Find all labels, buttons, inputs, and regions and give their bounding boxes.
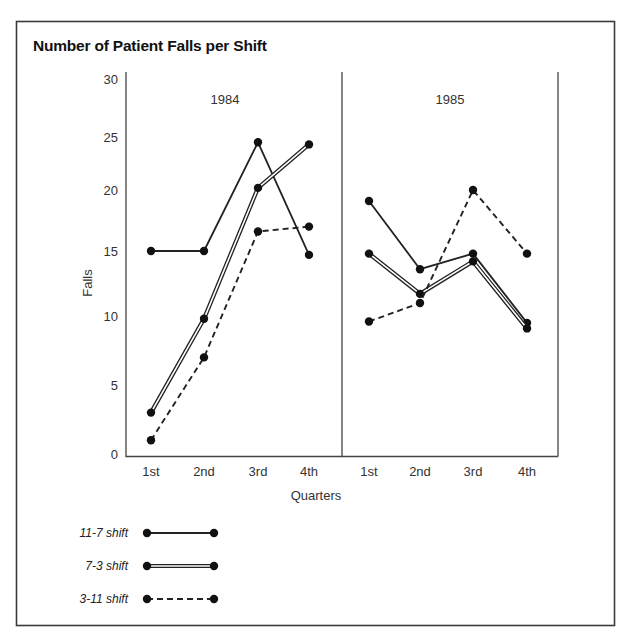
- series-line-double-inner: [369, 254, 527, 329]
- x-tick-label: 2nd: [193, 464, 215, 479]
- y-tick-label: 25: [104, 130, 118, 145]
- x-tick-label: 2nd: [409, 464, 431, 479]
- panel-label-1985: 1985: [436, 92, 465, 107]
- series-11-7-shift-1985: [365, 197, 531, 327]
- y-tick-label: 10: [104, 309, 118, 324]
- data-series: [147, 138, 531, 444]
- series-7-3-shift-1984: [147, 140, 313, 417]
- data-point-marker: [200, 315, 208, 323]
- data-point-marker: [200, 247, 208, 255]
- series-11-7-shift-1984: [147, 138, 313, 259]
- series-line-double-outer: [151, 144, 309, 412]
- axes: [126, 72, 558, 457]
- data-point-marker: [469, 249, 477, 257]
- chart-title: Number of Patient Falls per Shift: [33, 37, 267, 54]
- data-point-marker: [200, 353, 208, 361]
- data-point-marker: [365, 317, 373, 325]
- data-point-marker: [305, 140, 313, 148]
- panel-divider: [342, 72, 558, 457]
- data-point-marker: [254, 227, 262, 235]
- legend-marker: [210, 529, 218, 537]
- data-point-marker: [305, 222, 313, 230]
- legend-marker: [210, 562, 218, 570]
- x-tick-label: 3rd: [464, 464, 483, 479]
- data-point-marker: [147, 436, 155, 444]
- series-line-double-outer: [369, 254, 527, 329]
- legend-item: 7-3 shift: [85, 559, 218, 573]
- y-tick-label: 15: [104, 244, 118, 259]
- data-point-marker: [365, 197, 373, 205]
- patient-falls-chart: Number of Patient Falls per Shift 051015…: [0, 0, 627, 644]
- y-axis-ticks: 051015202530: [104, 72, 118, 462]
- y-tick-label: 0: [111, 447, 118, 462]
- data-point-marker: [254, 184, 262, 192]
- data-point-marker: [469, 186, 477, 194]
- x-tick-label: 1st: [360, 464, 378, 479]
- legend: 11-7 shift7-3 shift3-11 shift: [80, 526, 219, 606]
- data-point-marker: [305, 251, 313, 259]
- x-tick-label: 4th: [518, 464, 536, 479]
- y-tick-label: 5: [111, 378, 118, 393]
- data-point-marker: [365, 249, 373, 257]
- legend-marker: [210, 595, 218, 603]
- data-point-marker: [416, 299, 424, 307]
- data-point-marker: [416, 265, 424, 273]
- legend-marker: [143, 529, 151, 537]
- legend-marker: [143, 595, 151, 603]
- y-axis-label: Falls: [80, 269, 95, 297]
- x-axis-ticks: 1st2nd3rd4th1st2nd3rd4th: [142, 464, 536, 479]
- legend-item: 11-7 shift: [80, 526, 219, 540]
- x-tick-label: 1st: [142, 464, 160, 479]
- legend-label: 7-3 shift: [85, 559, 128, 573]
- legend-label: 11-7 shift: [80, 526, 129, 540]
- data-point-marker: [523, 324, 531, 332]
- data-point-marker: [254, 138, 262, 146]
- legend-marker: [143, 562, 151, 570]
- x-axis-label: Quarters: [291, 488, 342, 503]
- x-tick-label: 3rd: [249, 464, 268, 479]
- legend-label: 3-11 shift: [80, 592, 129, 606]
- data-point-marker: [147, 247, 155, 255]
- data-point-marker: [147, 408, 155, 416]
- data-point-marker: [469, 257, 477, 265]
- panel-label-1984: 1984: [211, 92, 240, 107]
- data-point-marker: [523, 249, 531, 257]
- legend-item: 3-11 shift: [80, 592, 219, 606]
- y-tick-label: 20: [104, 183, 118, 198]
- y-tick-label: 30: [104, 72, 118, 87]
- x-tick-label: 4th: [300, 464, 318, 479]
- series-line-solid: [151, 142, 309, 255]
- series-line-solid: [369, 201, 527, 323]
